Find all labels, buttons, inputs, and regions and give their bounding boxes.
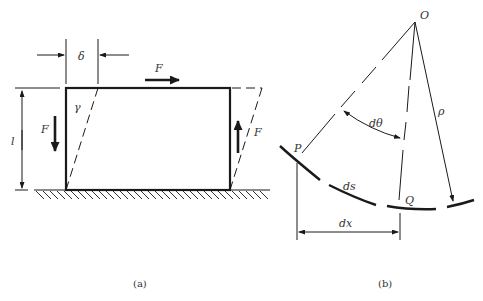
- undeformed-element: [66, 88, 230, 190]
- length-label: l: [11, 135, 15, 148]
- dtheta-label: dθ: [369, 117, 383, 130]
- radius-rho-arrow: [415, 22, 453, 201]
- radius-oq: [399, 22, 415, 200]
- panel-b-curvature-diagram: O ρ dθ P Q ds: [280, 9, 474, 289]
- radius-op: [302, 22, 415, 153]
- panel-b-caption: (b): [378, 278, 392, 289]
- deflection-curve: [280, 146, 474, 209]
- deformed-shape-dashed: [66, 88, 262, 190]
- dx-label: dx: [339, 217, 353, 230]
- panel-a-caption: (a): [133, 278, 147, 289]
- force-left-label: F: [40, 123, 49, 136]
- ground-hatching: [34, 190, 270, 199]
- figure-canvas: δ γ l F F F (a) O: [0, 0, 483, 301]
- force-right-label: F: [253, 126, 262, 139]
- force-top-label: F: [154, 62, 163, 75]
- panel-a-shear-diagram: δ γ l F F F (a): [11, 39, 270, 289]
- point-p-label: P: [293, 142, 302, 155]
- point-q-label: Q: [405, 194, 414, 207]
- rho-label: ρ: [437, 105, 445, 118]
- gamma-label: γ: [74, 101, 81, 114]
- delta-label: δ: [78, 50, 85, 63]
- ds-label: ds: [343, 180, 356, 193]
- origin-label: O: [420, 9, 429, 22]
- length-dimension: [15, 88, 60, 190]
